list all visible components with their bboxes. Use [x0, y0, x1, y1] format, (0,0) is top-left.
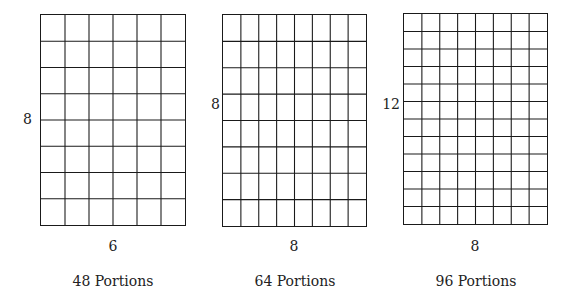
- grid-lines: [41, 15, 185, 225]
- column-count-label: 8: [445, 239, 505, 253]
- grid-6-by-8: [40, 14, 186, 226]
- column-count-label: 8: [264, 239, 324, 253]
- portions-caption: 48 Portions: [43, 274, 183, 288]
- portions-caption: 96 Portions: [406, 274, 546, 288]
- grid-8-by-8: [222, 14, 367, 227]
- row-count-label: 12: [370, 97, 400, 111]
- portions-caption: 64 Portions: [225, 274, 365, 288]
- column-count-label: 6: [83, 239, 143, 253]
- grid-lines: [404, 14, 547, 224]
- row-count-label: 8: [190, 97, 220, 111]
- grid-lines: [223, 15, 366, 226]
- row-count-label: 8: [2, 112, 32, 126]
- grid-8-by-12: [403, 13, 548, 225]
